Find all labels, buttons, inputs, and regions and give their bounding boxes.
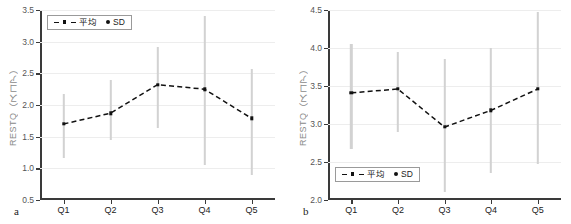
y-tick-label: 3.5 bbox=[22, 5, 34, 15]
y-tick-label: 3.5 bbox=[310, 81, 322, 91]
x-tick-label: Q2 bbox=[392, 205, 404, 215]
panel-label-a: a bbox=[14, 205, 19, 217]
dashed-line-marker-icon bbox=[342, 171, 364, 178]
y-tick-mark bbox=[324, 200, 328, 201]
y-tick-mark bbox=[36, 200, 40, 201]
y-tick-label: 4.0 bbox=[310, 43, 322, 53]
figure-two-line-charts: RESTQ（スコア） a 0.51.01.52.02.53.03.5Q1Q2Q3… bbox=[0, 0, 571, 224]
chart-panel-a: RESTQ（スコア） a 0.51.01.52.02.53.03.5Q1Q2Q3… bbox=[0, 0, 290, 224]
legend-item-mean: 平均 bbox=[342, 170, 385, 179]
series-line-mean bbox=[40, 10, 275, 200]
dot-marker-icon bbox=[106, 20, 110, 24]
data-point-marker bbox=[443, 125, 446, 128]
legend-label-mean: 平均 bbox=[79, 18, 97, 27]
data-point-marker bbox=[350, 91, 353, 94]
chart-panel-b: RESTQ（スコア） b 2.02.53.03.54.04.5Q1Q2Q3Q4Q… bbox=[290, 0, 571, 224]
legend-a: 平均 SD bbox=[47, 15, 132, 30]
x-tick-mark bbox=[252, 200, 253, 204]
y-tick-label: 4.5 bbox=[310, 5, 322, 15]
y-tick-label: 2.0 bbox=[310, 195, 322, 205]
y-tick-label: 3.0 bbox=[310, 119, 322, 129]
y-tick-label: 1.5 bbox=[22, 132, 34, 142]
x-tick-label: Q1 bbox=[345, 205, 357, 215]
x-tick-mark bbox=[158, 200, 159, 204]
legend-item-sd: SD bbox=[394, 170, 413, 179]
legend-label-mean: 平均 bbox=[367, 170, 385, 179]
dot-marker-icon bbox=[394, 172, 398, 176]
y-tick-label: 2.0 bbox=[22, 100, 34, 110]
y-axis-label: RESTQ（スコア） bbox=[6, 10, 19, 200]
x-tick-mark bbox=[64, 200, 65, 204]
x-tick-mark bbox=[351, 200, 352, 204]
legend-item-mean: 平均 bbox=[54, 18, 97, 27]
panel-label-b: b bbox=[303, 205, 309, 217]
data-point-marker bbox=[396, 87, 399, 90]
y-tick-label: 2.5 bbox=[22, 68, 34, 78]
x-tick-mark bbox=[445, 200, 446, 204]
x-tick-label: Q5 bbox=[532, 205, 544, 215]
x-tick-mark bbox=[538, 200, 539, 204]
data-point-marker bbox=[203, 87, 206, 90]
x-tick-label: Q4 bbox=[198, 205, 210, 215]
y-tick-label: 1.0 bbox=[22, 163, 34, 173]
legend-b: 平均 SD bbox=[335, 167, 420, 182]
x-tick-label: Q4 bbox=[485, 205, 497, 215]
legend-label-sd: SD bbox=[401, 170, 413, 179]
x-tick-label: Q3 bbox=[151, 205, 163, 215]
x-tick-label: Q3 bbox=[438, 205, 450, 215]
legend-item-sd: SD bbox=[106, 18, 125, 27]
x-tick-label: Q2 bbox=[104, 205, 116, 215]
y-axis-label: RESTQ（スコア） bbox=[296, 10, 309, 200]
x-tick-mark bbox=[205, 200, 206, 204]
x-tick-mark bbox=[398, 200, 399, 204]
y-tick-label: 0.5 bbox=[22, 195, 34, 205]
data-point-marker bbox=[250, 117, 253, 120]
data-point-marker bbox=[109, 112, 112, 115]
x-tick-label: Q5 bbox=[245, 205, 257, 215]
x-tick-mark bbox=[111, 200, 112, 204]
data-point-marker bbox=[62, 122, 65, 125]
x-tick-label: Q1 bbox=[57, 205, 69, 215]
x-tick-mark bbox=[491, 200, 492, 204]
data-point-marker bbox=[156, 83, 159, 86]
legend-label-sd: SD bbox=[113, 18, 125, 27]
y-tick-label: 3.0 bbox=[22, 37, 34, 47]
dashed-line-marker-icon bbox=[54, 19, 76, 26]
y-tick-label: 2.5 bbox=[310, 157, 322, 167]
plot-area-a: 0.51.01.52.02.53.03.5Q1Q2Q3Q4Q5 bbox=[40, 10, 275, 200]
data-point-marker bbox=[536, 87, 539, 90]
data-point-marker bbox=[489, 109, 492, 112]
